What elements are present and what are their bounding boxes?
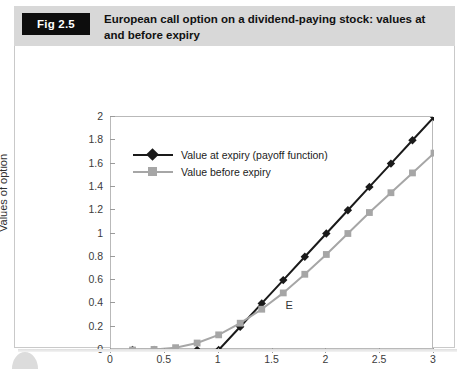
x-tick-label: 1.5 (264, 353, 279, 365)
chart-legend: Value at expiry (payoff function) Value … (133, 147, 328, 181)
data-point-marker (194, 340, 201, 347)
data-point-marker (280, 290, 287, 297)
y-tick (110, 302, 115, 303)
figure-title: European call option on a dividend-payin… (104, 12, 434, 44)
y-axis-title: Values of option (0, 154, 9, 232)
figure-header: Fig 2.5 European call option on a divide… (14, 6, 455, 46)
x-tick-label: 1 (215, 353, 221, 365)
legend-label-before-expiry: Value before expiry (181, 166, 271, 178)
x-tick-label: 0 (107, 353, 113, 365)
y-tick (110, 279, 115, 280)
page-artifact (12, 352, 38, 369)
x-tick-label: 2 (322, 353, 328, 365)
annotation-label-e: E (285, 299, 292, 311)
y-tick (110, 163, 115, 164)
square-marker-icon (148, 167, 157, 176)
data-point-marker (409, 170, 416, 177)
legend-swatch-before-expiry (133, 166, 173, 178)
figure-frame: 00.511.522.53 00.20.40.60.811.21.41.61.8… (14, 46, 455, 348)
x-tick-label: 0.5 (157, 353, 172, 365)
x-tick-label: 2.5 (372, 353, 387, 365)
frame-shadow (18, 349, 457, 352)
data-point-marker (258, 306, 265, 313)
figure-container: Fig 2.5 European call option on a divide… (0, 0, 471, 370)
legend-item-before-expiry: Value before expiry (133, 164, 328, 179)
diamond-marker-icon (146, 148, 159, 161)
data-point-marker (237, 320, 244, 327)
x-tick-label: 3 (430, 353, 436, 365)
data-point-marker (366, 209, 373, 216)
y-tick (110, 209, 115, 210)
figure-number-badge: Fig 2.5 (22, 13, 90, 35)
legend-swatch-at-expiry (133, 149, 173, 161)
y-tick (110, 116, 115, 117)
data-point-marker (344, 230, 351, 237)
y-tick (110, 139, 115, 140)
data-point-marker (301, 271, 308, 278)
data-point-marker (215, 331, 222, 338)
legend-label-at-expiry: Value at expiry (payoff function) (181, 149, 328, 161)
y-tick (110, 326, 115, 327)
y-tick (110, 186, 115, 187)
data-point-marker (388, 189, 395, 196)
legend-item-at-expiry: Value at expiry (payoff function) (133, 147, 328, 162)
data-point-marker (323, 251, 330, 258)
data-point-marker (431, 150, 434, 157)
y-tick (110, 233, 115, 234)
y-tick (110, 256, 115, 257)
series-line-1 (133, 153, 434, 350)
